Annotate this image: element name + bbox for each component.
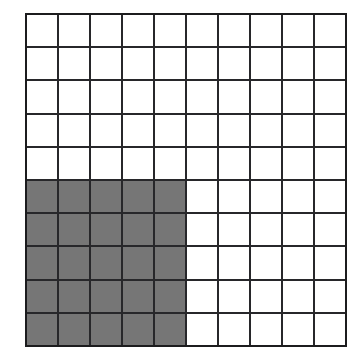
grid-cell-shaded[interactable] (154, 280, 186, 313)
grid-cell-unshaded[interactable] (314, 14, 346, 47)
grid-cell-shaded[interactable] (154, 246, 186, 279)
grid-cell-unshaded[interactable] (58, 114, 90, 147)
grid-cell-shaded[interactable] (58, 246, 90, 279)
grid-cell-unshaded[interactable] (314, 80, 346, 113)
grid-cell-unshaded[interactable] (58, 47, 90, 80)
grid-cell-unshaded[interactable] (250, 47, 282, 80)
grid-cell-shaded[interactable] (90, 180, 122, 213)
grid-cell-unshaded[interactable] (154, 147, 186, 180)
grid-cell-unshaded[interactable] (186, 246, 218, 279)
grid-cell-unshaded[interactable] (314, 114, 346, 147)
grid-cell-shaded[interactable] (90, 313, 122, 346)
grid-cell-unshaded[interactable] (186, 47, 218, 80)
grid-cell-unshaded[interactable] (90, 114, 122, 147)
grid-cell-unshaded[interactable] (314, 246, 346, 279)
grid-cell-unshaded[interactable] (186, 147, 218, 180)
grid-cell-unshaded[interactable] (122, 114, 154, 147)
grid-cell-unshaded[interactable] (282, 213, 314, 246)
grid-cell-unshaded[interactable] (250, 80, 282, 113)
grid-cell-unshaded[interactable] (186, 280, 218, 313)
grid-cell-unshaded[interactable] (218, 280, 250, 313)
grid-cell-shaded[interactable] (90, 246, 122, 279)
grid-cell-shaded[interactable] (26, 180, 58, 213)
grid-cell-unshaded[interactable] (154, 47, 186, 80)
grid-cell-unshaded[interactable] (282, 14, 314, 47)
grid-cell-unshaded[interactable] (122, 80, 154, 113)
grid-cell-unshaded[interactable] (122, 14, 154, 47)
grid-cell-unshaded[interactable] (186, 80, 218, 113)
grid-cell-unshaded[interactable] (218, 147, 250, 180)
grid-cell-unshaded[interactable] (186, 313, 218, 346)
grid-cell-unshaded[interactable] (282, 114, 314, 147)
grid-cell-shaded[interactable] (58, 180, 90, 213)
grid-cell-shaded[interactable] (154, 313, 186, 346)
grid-cell-unshaded[interactable] (186, 180, 218, 213)
grid-cell-unshaded[interactable] (26, 14, 58, 47)
grid-cell-unshaded[interactable] (58, 80, 90, 113)
grid-cell-unshaded[interactable] (250, 147, 282, 180)
grid-cell-shaded[interactable] (154, 213, 186, 246)
grid-cell-unshaded[interactable] (26, 114, 58, 147)
grid-cell-shaded[interactable] (58, 280, 90, 313)
grid-cell-unshaded[interactable] (282, 246, 314, 279)
grid-cell-unshaded[interactable] (26, 147, 58, 180)
grid-cell-shaded[interactable] (26, 280, 58, 313)
grid-cell-unshaded[interactable] (218, 47, 250, 80)
grid-cell-unshaded[interactable] (58, 14, 90, 47)
grid-cell-unshaded[interactable] (250, 180, 282, 213)
grid-cell-unshaded[interactable] (218, 246, 250, 279)
grid-cell-shaded[interactable] (26, 246, 58, 279)
grid-cell-unshaded[interactable] (186, 14, 218, 47)
grid-cell-unshaded[interactable] (154, 14, 186, 47)
grid-cell-unshaded[interactable] (282, 80, 314, 113)
grid-cell-shaded[interactable] (122, 280, 154, 313)
grid-cell-shaded[interactable] (122, 313, 154, 346)
grid-cell-unshaded[interactable] (314, 180, 346, 213)
grid-cell-shaded[interactable] (90, 213, 122, 246)
grid-cell-shaded[interactable] (26, 313, 58, 346)
grid-cell-unshaded[interactable] (282, 313, 314, 346)
grid-cell-unshaded[interactable] (314, 280, 346, 313)
grid-cell-unshaded[interactable] (314, 147, 346, 180)
grid-cell-shaded[interactable] (122, 213, 154, 246)
grid-cell-unshaded[interactable] (282, 180, 314, 213)
grid-cell-unshaded[interactable] (154, 80, 186, 113)
grid-cell-unshaded[interactable] (218, 313, 250, 346)
grid-cell-unshaded[interactable] (154, 114, 186, 147)
grid-cell-shaded[interactable] (90, 280, 122, 313)
grid-cell-unshaded[interactable] (250, 213, 282, 246)
grid-cell-unshaded[interactable] (186, 114, 218, 147)
grid-cell-unshaded[interactable] (122, 47, 154, 80)
grid-cell-unshaded[interactable] (314, 47, 346, 80)
grid-cell-unshaded[interactable] (282, 47, 314, 80)
grid-cell-shaded[interactable] (122, 180, 154, 213)
grid-cell-shaded[interactable] (26, 213, 58, 246)
grid-cell-unshaded[interactable] (282, 147, 314, 180)
grid-cell-unshaded[interactable] (314, 313, 346, 346)
grid-cell-unshaded[interactable] (218, 213, 250, 246)
grid-cell-unshaded[interactable] (90, 47, 122, 80)
grid-cell-unshaded[interactable] (218, 14, 250, 47)
grid-cell-unshaded[interactable] (218, 114, 250, 147)
grid-cell-unshaded[interactable] (282, 280, 314, 313)
grid-cell-shaded[interactable] (58, 313, 90, 346)
grid-cell-unshaded[interactable] (314, 213, 346, 246)
grid-cell-unshaded[interactable] (250, 114, 282, 147)
grid-cell-shaded[interactable] (154, 180, 186, 213)
grid-cell-unshaded[interactable] (218, 180, 250, 213)
grid-cell-unshaded[interactable] (186, 213, 218, 246)
grid-cell-shaded[interactable] (58, 213, 90, 246)
grid-cell-unshaded[interactable] (218, 80, 250, 113)
grid-cell-unshaded[interactable] (250, 313, 282, 346)
grid-cell-shaded[interactable] (122, 246, 154, 279)
grid-cell-unshaded[interactable] (26, 80, 58, 113)
grid-cell-unshaded[interactable] (250, 246, 282, 279)
grid-cell-unshaded[interactable] (90, 14, 122, 47)
grid-cell-unshaded[interactable] (58, 147, 90, 180)
grid-cell-unshaded[interactable] (250, 280, 282, 313)
grid-cell-unshaded[interactable] (122, 147, 154, 180)
grid-cell-unshaded[interactable] (90, 80, 122, 113)
grid-cell-unshaded[interactable] (250, 14, 282, 47)
grid-cell-unshaded[interactable] (26, 47, 58, 80)
grid-cell-unshaded[interactable] (90, 147, 122, 180)
